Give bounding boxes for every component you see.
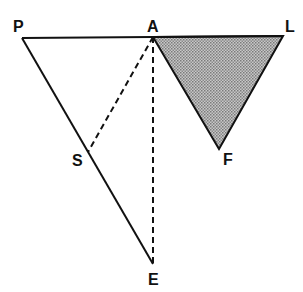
label-l: L — [285, 18, 295, 35]
label-p: P — [13, 18, 24, 35]
label-a: A — [147, 18, 159, 35]
label-e: E — [148, 271, 159, 288]
segment-as-dashed — [88, 37, 153, 152]
label-s: S — [72, 152, 83, 169]
shaded-triangle-alf — [153, 36, 283, 149]
geometry-diagram: P A L S F E — [0, 0, 303, 292]
label-f: F — [223, 151, 233, 168]
